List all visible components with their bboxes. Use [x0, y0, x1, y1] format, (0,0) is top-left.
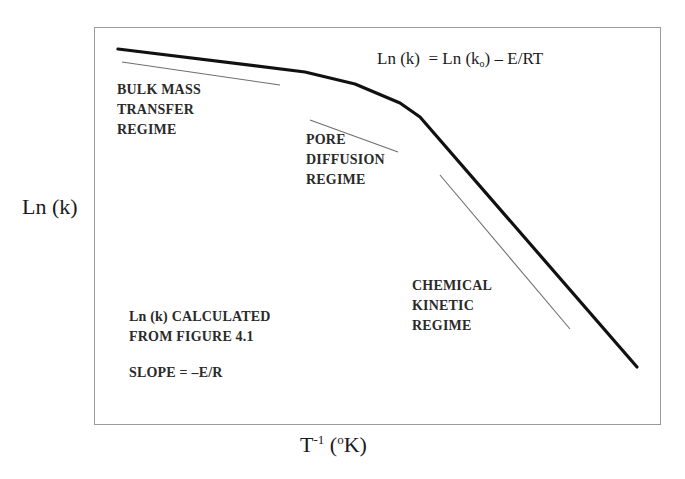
chemical-line-2: KINETIC — [412, 296, 492, 316]
pore-line-1: PORE — [306, 130, 385, 150]
chemical-line-3: REGIME — [412, 316, 492, 336]
calculation-note: Ln (k) CALCULATED FROM FIGURE 4.1 SLOPE … — [129, 307, 271, 383]
slope-note: SLOPE = –E/R — [129, 363, 271, 383]
x-axis-base: T — [300, 432, 313, 457]
equation-rhs-suffix: ) – E/RT — [485, 49, 543, 68]
note-line-1: Ln (k) CALCULATED — [129, 307, 271, 327]
bulk-line-1: BULK MASS — [117, 80, 201, 100]
equation-rhs-prefix: = Ln (k — [428, 49, 479, 68]
rate-equation: Ln (k) = Ln (ko) – E/RT — [377, 49, 543, 69]
x-axis-unit: K) — [344, 432, 367, 457]
pore-diffusion-label: PORE DIFFUSION REGIME — [306, 130, 385, 190]
x-axis-label: T-1 (oK) — [300, 432, 367, 458]
pore-line-2: DIFFUSION — [306, 150, 385, 170]
pore-line-3: REGIME — [306, 170, 385, 190]
x-axis-exponent: -1 — [313, 432, 324, 447]
y-axis-label: Ln (k) — [22, 194, 78, 220]
note-spacer — [129, 347, 271, 363]
equation-lhs: Ln (k) — [377, 49, 420, 68]
plot-area — [0, 0, 685, 479]
note-line-2: FROM FIGURE 4.1 — [129, 327, 271, 347]
bulk-line-3: REGIME — [117, 120, 201, 140]
chemical-kinetic-label: CHEMICAL KINETIC REGIME — [412, 276, 492, 336]
x-axis-unit-open: ( — [324, 432, 337, 457]
chemical-line-1: CHEMICAL — [412, 276, 492, 296]
bulk-mass-transfer-label: BULK MASS TRANSFER REGIME — [117, 80, 201, 140]
bulk-line-2: TRANSFER — [117, 100, 201, 120]
